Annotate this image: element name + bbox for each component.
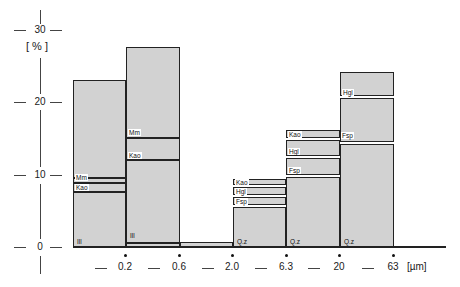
x-boundary-dot-6.3 — [285, 254, 288, 257]
bar5-label-hgl: Hgl — [288, 148, 300, 155]
bar2-label-kao: Kao — [128, 152, 142, 159]
bar5-label-kao: Kao — [288, 131, 302, 138]
x-tick-label-63: 63 — [378, 261, 408, 272]
y-tick-0-right — [50, 247, 62, 248]
x-tick-label-20: 20 — [324, 261, 354, 272]
x-tick-label-0.6: 0.6 — [164, 261, 194, 272]
x-dash-5 — [308, 268, 320, 269]
y-axis-line-top — [40, 10, 41, 24]
x-boundary-dot-0.6 — [178, 254, 181, 257]
x-dash-6 — [362, 268, 374, 269]
x-dash-3 — [202, 268, 214, 269]
y-tick-30-right — [50, 30, 62, 31]
bar6-label-hgl: Hgl — [342, 89, 354, 96]
bar2-segment-ill — [126, 243, 180, 247]
bar2-segment-mm — [126, 47, 180, 138]
y-unit-label: [ % ] — [26, 40, 48, 52]
x-boundary-dot-20 — [338, 254, 341, 257]
bar2-segment-middle — [126, 160, 180, 243]
bar2-label-ill: Ill — [129, 232, 136, 239]
bar1-segment-upper — [73, 80, 126, 178]
bar4-label-fsp: Fsp — [235, 198, 248, 205]
y-axis-line-upper — [40, 58, 41, 94]
x-tick-label-6.3: 6.3 — [271, 261, 301, 272]
x-tick-label-0.2: 0.2 — [110, 261, 140, 272]
x-tick-label-2.0: 2.0 — [217, 261, 247, 272]
bar5-segment-qz — [286, 177, 340, 247]
y-tick-10-left — [14, 175, 26, 176]
y-axis-line-lower — [40, 184, 41, 239]
y-axis-line-mid — [40, 110, 41, 167]
bar6-label-fsp: Fsp — [341, 132, 354, 139]
x-boundary-dot-63 — [392, 254, 395, 257]
bar5-label-qz: Q.z — [289, 238, 301, 245]
bar3-segment — [180, 242, 233, 247]
x-boundary-dot-0.2 — [124, 254, 127, 257]
bar4-label-hgl: Hgl — [235, 188, 247, 195]
bar5-label-fsp: Fsp — [288, 167, 301, 174]
bar2-label-mm: Mm — [128, 129, 141, 136]
x-dash-2 — [148, 268, 160, 269]
y-tick-label-20: 20 — [28, 96, 52, 107]
y-tick-label-10: 10 — [28, 169, 52, 180]
x-unit-label: [µm] — [407, 261, 427, 272]
y-tick-10-right — [50, 175, 62, 176]
y-tick-20-left — [14, 102, 26, 103]
y-tick-label-0: 0 — [28, 241, 52, 252]
y-axis-line-bottom — [40, 256, 41, 274]
bar1-label-ill: Ill — [76, 238, 83, 245]
bar1-label-mm: Mm — [75, 174, 88, 181]
bar6-segment-qz — [340, 144, 394, 247]
y-tick-30-left — [14, 30, 26, 31]
bar1-label-kao: Kao — [75, 184, 89, 191]
bar6-label-qz: Q.z — [343, 238, 355, 245]
bar4-label-qz: Q.z — [236, 238, 248, 245]
x-boundary-dot-2.0 — [231, 254, 234, 257]
x-dash-4 — [255, 268, 267, 269]
y-tick-0-left — [14, 247, 26, 248]
bar4-label-kao: Kao — [235, 179, 249, 186]
y-tick-label-30: 30 — [28, 24, 52, 35]
y-tick-20-right — [50, 102, 62, 103]
x-dash-1 — [95, 268, 107, 269]
